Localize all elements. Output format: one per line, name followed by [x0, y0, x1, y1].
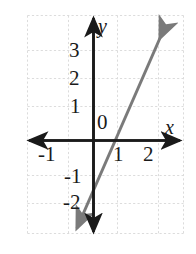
- y-tick-label-1: 1: [70, 96, 81, 117]
- x-tick-label-2: 2: [143, 144, 154, 165]
- y-axis-name-label: y: [98, 16, 107, 36]
- y-tick-label-3: 3: [69, 40, 80, 61]
- x-axis-name-label: x: [165, 117, 174, 137]
- x-tick-label-1: 1: [113, 144, 124, 165]
- plotted-line: [77, 38, 160, 228]
- y-tick-label-neg1: -1: [64, 166, 82, 187]
- origin-label: 0: [97, 112, 108, 133]
- y-tick-label-neg2: -2: [63, 192, 81, 213]
- x-tick-label-neg1: -1: [38, 144, 56, 165]
- graph-figure: 3 2 1 -1 -2 -1 1 2 0 y x: [0, 0, 196, 254]
- y-tick-label-2: 2: [69, 68, 80, 89]
